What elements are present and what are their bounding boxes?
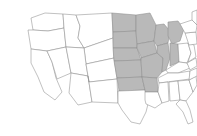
state-or: Oregon [28,28,66,51]
states-layer: WashingtonOregonCaliforniaNevadaIdahoMon… [28,10,197,124]
state-tx: Texas [118,90,149,124]
state-ok: Oklahoma [117,77,145,91]
state-sd: South Dakota [113,31,137,48]
state-fl: Florida [176,100,193,124]
state-ne: Nebraska [113,48,141,61]
state-wi: Wisconsin [154,24,170,46]
state-mn: Minnesota [136,13,156,44]
state-nd: North Dakota [112,13,136,32]
us-map-svg: WashingtonOregonCaliforniaNevadaIdahoMon… [0,0,197,136]
us-choropleth-map: WashingtonOregonCaliforniaNevadaIdahoMon… [0,0,197,136]
state-wa: Washington [31,13,64,31]
state-mo: Missouri [141,53,163,78]
state-ks: Kansas [114,60,142,78]
